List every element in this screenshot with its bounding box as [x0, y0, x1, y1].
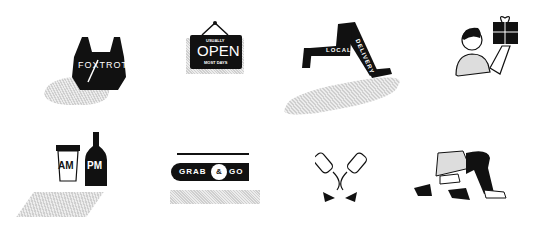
- grab-label: GRAB: [179, 167, 207, 176]
- shadow: [170, 190, 260, 204]
- local-label: LOCAL: [326, 47, 352, 53]
- am-pm-drinks-illustration: AM PM: [20, 140, 110, 220]
- open-label: OPEN: [197, 42, 240, 59]
- go-label: GO: [229, 167, 243, 176]
- rail: [177, 153, 249, 155]
- person-with-gift-illustration: [450, 10, 520, 85]
- wine-bottles-illustration: [315, 150, 370, 205]
- foxtrot-label: FOXTROT: [78, 60, 128, 70]
- local-delivery-illustration: LOCAL DELIVERY: [290, 20, 410, 115]
- legs-icon: [408, 148, 513, 208]
- am-label: AM: [58, 160, 74, 171]
- most-days-label: MOST DAYS: [204, 60, 227, 65]
- shadow: [16, 192, 104, 217]
- pm-label: PM: [87, 160, 102, 171]
- ampersand: &: [211, 164, 227, 180]
- person-gift-icon: [450, 10, 520, 85]
- foxtrot-bag-illustration: FOXTROT: [40, 15, 130, 105]
- grab-and-go-illustration: GRAB & GO: [165, 148, 265, 208]
- bottles-glasses-icon: [315, 150, 370, 205]
- open-sign-illustration: USUALLY OPEN MOST DAYS: [180, 20, 255, 75]
- legs-heels-sneakers-illustration: [408, 148, 513, 208]
